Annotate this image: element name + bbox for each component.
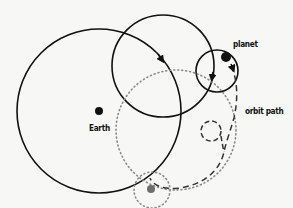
planet-dot bbox=[221, 52, 231, 62]
ghost-planet-dot bbox=[147, 185, 155, 193]
medium-orbit-circle bbox=[112, 15, 214, 117]
planet-label: planet bbox=[233, 39, 258, 49]
orbit-path-dashed bbox=[150, 66, 237, 189]
diagram-svg bbox=[0, 0, 293, 208]
orbit-loop-dashed bbox=[201, 121, 221, 141]
planet-epicycle-circle bbox=[196, 50, 238, 92]
orbit-path-dashed-branch bbox=[221, 136, 224, 152]
earth-dot bbox=[95, 107, 103, 115]
epicycle-diagram: Earth planet orbit path bbox=[0, 0, 293, 208]
orbit-path-label: orbit path bbox=[245, 106, 283, 116]
earth-label: Earth bbox=[89, 123, 110, 133]
deferent-dotted-circle bbox=[116, 70, 236, 190]
arrow-medium-circle-icon bbox=[212, 72, 213, 78]
